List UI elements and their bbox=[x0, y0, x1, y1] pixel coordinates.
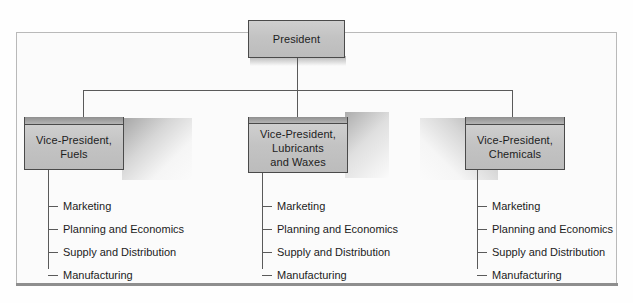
tree-tick-icon bbox=[48, 275, 58, 276]
tree-tick-icon bbox=[48, 229, 58, 230]
tree-tick-icon bbox=[477, 206, 487, 207]
node-vp-lubricants-label: Vice-President, Lubricants and Waxes bbox=[256, 127, 340, 169]
connector-president-stem bbox=[297, 58, 298, 91]
tree-tick-icon bbox=[48, 206, 58, 207]
function-label: Planning and Economics bbox=[63, 222, 184, 236]
function-label: Supply and Distribution bbox=[492, 245, 605, 259]
node-vp-chemicals-label: Vice-President, Chemicals bbox=[473, 133, 557, 161]
function-list-fuels-spine bbox=[48, 170, 49, 269]
node-vp-chemicals[interactable]: Vice-President, Chemicals bbox=[465, 124, 565, 170]
function-label: Planning and Economics bbox=[277, 222, 398, 236]
tree-tick-icon bbox=[262, 206, 272, 207]
function-label: Manufacturing bbox=[277, 268, 347, 282]
function-label: Supply and Distribution bbox=[63, 245, 176, 259]
function-list-chemicals: Marketing Planning and Economics Supply … bbox=[477, 170, 633, 280]
function-label: Manufacturing bbox=[492, 268, 562, 282]
org-chart-canvas: President Vice-President, Fuels Vice-Pre… bbox=[0, 0, 633, 303]
tree-tick-icon bbox=[477, 275, 487, 276]
function-label: Marketing bbox=[63, 199, 111, 213]
function-label: Planning and Economics bbox=[492, 222, 613, 236]
node-vp-lubricants[interactable]: Vice-President, Lubricants and Waxes bbox=[248, 123, 348, 173]
connector-drop-fuels bbox=[83, 90, 84, 123]
function-list-chemicals-spine bbox=[477, 170, 478, 269]
connector-horizontal-bus bbox=[83, 90, 513, 91]
tree-tick-icon bbox=[48, 252, 58, 253]
function-label: Supply and Distribution bbox=[277, 245, 390, 259]
function-label: Manufacturing bbox=[63, 268, 133, 282]
node-president-label: President bbox=[269, 32, 324, 46]
function-label: Marketing bbox=[277, 199, 325, 213]
function-list-lubricants-spine bbox=[262, 173, 263, 269]
function-label: Marketing bbox=[492, 199, 540, 213]
chart-frame-bottom-edge bbox=[16, 283, 618, 286]
tree-tick-icon bbox=[262, 275, 272, 276]
function-list-fuels: Marketing Planning and Economics Supply … bbox=[48, 170, 228, 280]
tree-tick-icon bbox=[262, 229, 272, 230]
function-list-lubricants: Marketing Planning and Economics Supply … bbox=[262, 173, 442, 283]
tree-tick-icon bbox=[477, 252, 487, 253]
tree-tick-icon bbox=[262, 252, 272, 253]
connector-drop-lubricants bbox=[297, 90, 298, 117]
node-vp-fuels-label: Vice-President, Fuels bbox=[32, 133, 116, 161]
tree-tick-icon bbox=[477, 229, 487, 230]
node-vp-fuels[interactable]: Vice-President, Fuels bbox=[24, 124, 124, 170]
connector-drop-chemicals bbox=[512, 90, 513, 123]
node-president[interactable]: President bbox=[248, 20, 345, 58]
